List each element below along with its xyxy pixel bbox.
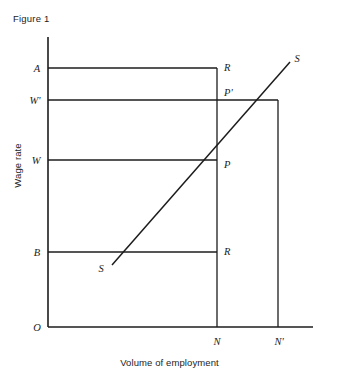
- label-y-A: A: [33, 63, 41, 74]
- label-y-W: W: [32, 155, 42, 166]
- label-S-upper: S: [294, 53, 300, 64]
- label-x-N: N: [212, 336, 221, 347]
- label-y-w-prime: W': [30, 95, 42, 106]
- label-y-B: B: [34, 247, 41, 258]
- x-axis-title: Volume of employment: [0, 357, 339, 368]
- label-R-upper: R: [223, 62, 231, 73]
- label-x-N-prime: N': [273, 336, 284, 347]
- label-R-lower: R: [223, 246, 231, 257]
- economics-diagram: A W' W B O R P' P R N N' S S: [0, 0, 339, 383]
- label-P-prime: P': [223, 87, 233, 98]
- supply-curve-SS: [112, 62, 290, 265]
- label-P: P: [223, 159, 231, 170]
- y-axis-title: Wage rate: [12, 126, 23, 206]
- label-origin: O: [33, 322, 41, 333]
- label-S-lower: S: [98, 263, 104, 274]
- figure-container: Figure 1 A W' W B O R P' P R N N': [0, 0, 339, 383]
